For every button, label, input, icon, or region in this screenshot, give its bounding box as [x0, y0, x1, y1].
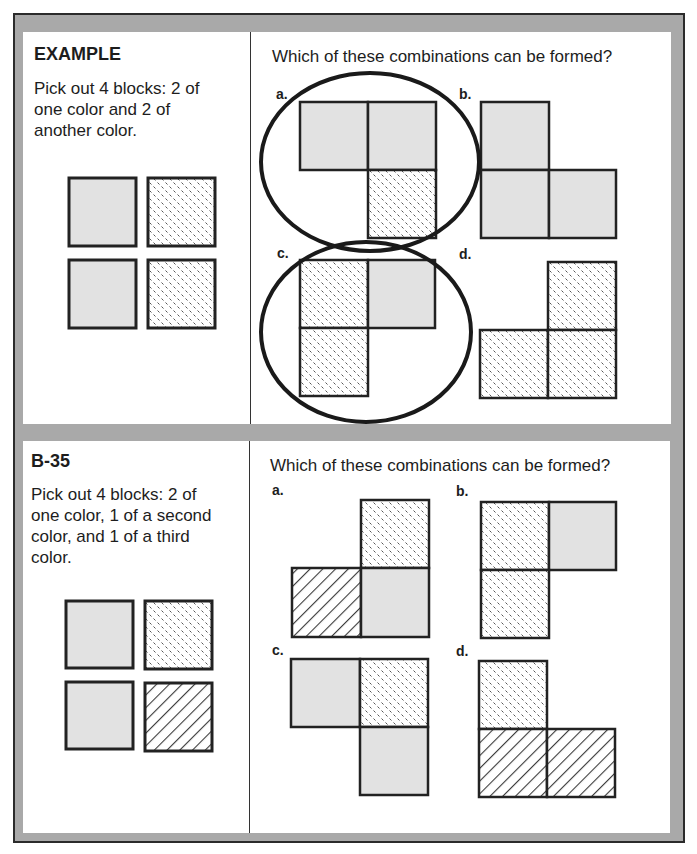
block-gray — [69, 260, 136, 328]
block-gray — [481, 102, 549, 170]
block-stripes — [145, 683, 212, 751]
example-column-divider — [250, 32, 251, 424]
block-stripes — [547, 729, 615, 797]
problem-question: Which of these combinations can be forme… — [270, 456, 610, 476]
example-heading: EXAMPLE — [34, 44, 121, 65]
example-option-c-label: c. — [277, 245, 289, 261]
instruction-line: color. — [31, 547, 212, 568]
problem-heading: B-35 — [31, 451, 70, 472]
example-option-d-label: d. — [459, 246, 471, 262]
block-dots — [548, 262, 616, 330]
block-gray — [66, 601, 133, 668]
example-instruction: Pick out 4 blocks: 2 of one color and 2 … — [34, 78, 199, 141]
instruction-line: one color and 2 of — [34, 99, 199, 120]
instruction-line: Pick out 4 blocks: 2 of — [31, 484, 212, 505]
block-dots — [148, 260, 215, 328]
instruction-line: one color, 1 of a second — [31, 505, 212, 526]
block-stripes — [292, 568, 361, 637]
example-question: Which of these combinations can be forme… — [272, 47, 612, 67]
block-gray — [481, 170, 549, 238]
instruction-line: color, and 1 of a third — [31, 526, 212, 547]
block-dots — [361, 500, 429, 568]
problem-option-b-label: b. — [456, 483, 468, 499]
block-dots — [481, 570, 549, 638]
block-dots — [480, 330, 548, 398]
block-dots — [481, 502, 549, 570]
block-gray — [361, 568, 429, 637]
block-stripes — [479, 729, 547, 797]
block-gray — [69, 178, 136, 246]
example-option-a-label: a. — [276, 86, 288, 102]
block-dots — [148, 178, 215, 246]
block-dots — [548, 330, 616, 398]
problem-option-d-label: d. — [456, 643, 468, 659]
block-gray — [549, 170, 616, 238]
block-gray — [368, 102, 436, 170]
block-gray — [368, 260, 435, 328]
block-dots — [145, 601, 212, 669]
block-dots — [300, 328, 368, 396]
block-dots — [368, 170, 436, 238]
instruction-line: another color. — [34, 120, 199, 141]
block-dots — [360, 659, 428, 727]
block-gray — [66, 682, 133, 749]
problem-instruction: Pick out 4 blocks: 2 of one color, 1 of … — [31, 484, 212, 568]
block-dots — [479, 661, 547, 729]
block-gray — [300, 102, 368, 170]
block-gray — [549, 502, 616, 570]
example-option-b-label: b. — [459, 86, 471, 102]
problem-column-divider — [249, 441, 250, 833]
block-gray — [291, 659, 360, 727]
instruction-line: Pick out 4 blocks: 2 of — [34, 78, 199, 99]
problem-option-a-label: a. — [272, 482, 284, 498]
problem-option-c-label: c. — [272, 642, 284, 658]
block-dots — [300, 260, 368, 328]
block-gray — [360, 727, 428, 795]
